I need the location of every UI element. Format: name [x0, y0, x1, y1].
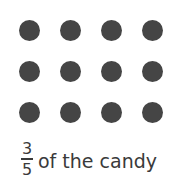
candy-dot	[142, 20, 163, 41]
caption-text: of the candy	[38, 150, 157, 172]
fraction-denominator: 5	[22, 161, 32, 178]
candy-dot	[60, 20, 81, 41]
candy-dot	[19, 61, 40, 82]
candy-dot	[60, 61, 81, 82]
fraction-numerator: 3	[22, 140, 32, 157]
candy-dot	[19, 20, 40, 41]
candy-dot	[101, 20, 122, 41]
candy-dot	[142, 102, 163, 123]
candy-dot	[19, 102, 40, 123]
candy-dot	[60, 102, 81, 123]
candy-dot	[101, 61, 122, 82]
candy-dot	[142, 61, 163, 82]
candy-dot	[101, 102, 122, 123]
fraction: 3 5	[20, 140, 34, 178]
